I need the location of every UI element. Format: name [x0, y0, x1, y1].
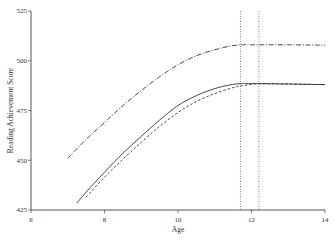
series-line-solid: [77, 84, 325, 204]
x-axis-title: Age: [172, 225, 185, 234]
y-tick-label: 450: [17, 157, 28, 165]
x-tick-label: 8: [103, 216, 107, 224]
y-tick-label: 500: [17, 57, 28, 65]
line-chart: 425450475500525 68101214 Age Reading Ach…: [0, 0, 335, 242]
axes: [31, 11, 325, 210]
y-ticks: 425450475500525: [17, 7, 32, 214]
y-axis-title: Reading Achievement Score: [6, 67, 15, 153]
series-line-dashed: [86, 84, 325, 198]
y-tick-label: 525: [17, 7, 28, 15]
series-layer: [68, 45, 325, 203]
x-tick-label: 10: [175, 216, 183, 224]
x-tick-label: 14: [322, 216, 330, 224]
y-tick-label: 425: [17, 206, 28, 214]
x-ticks: 68101214: [29, 210, 329, 224]
y-tick-label: 475: [17, 107, 28, 115]
reference-vertical-lines: [240, 11, 258, 210]
x-tick-label: 12: [248, 216, 256, 224]
x-tick-label: 6: [29, 216, 33, 224]
